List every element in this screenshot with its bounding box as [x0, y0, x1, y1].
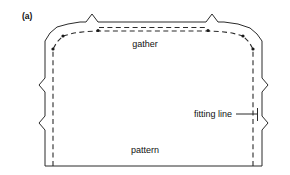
dot-marker	[241, 34, 244, 37]
pattern-label: pattern	[131, 145, 159, 155]
pattern-diagram-canvas: (a) gather fitting line pattern	[0, 0, 290, 175]
panel-label: (a)	[22, 11, 33, 21]
dot-marker	[61, 34, 64, 37]
fitting-line-right	[243, 36, 253, 166]
dot-marker	[251, 47, 254, 50]
gather-label: gather	[132, 39, 158, 49]
dot-marker	[206, 29, 209, 32]
fitting-line-label: fitting line	[194, 109, 232, 119]
cutting-line-outline	[39, 14, 268, 166]
pattern-diagram-figure: (a) gather fitting line pattern	[0, 0, 290, 175]
dot-marker	[96, 29, 99, 32]
fitting-line-left	[53, 36, 63, 166]
fitting-line-top	[63, 31, 243, 36]
dot-marker	[51, 47, 54, 50]
